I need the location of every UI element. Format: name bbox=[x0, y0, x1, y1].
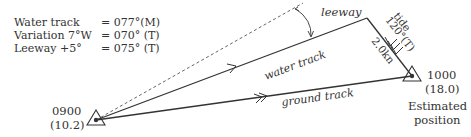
start-fix-log: (10.2) bbox=[50, 118, 85, 132]
leeway-arrow-top-icon bbox=[295, 7, 299, 11]
ground-track-line bbox=[96, 76, 412, 120]
estimated-position-line1: Estimated bbox=[408, 99, 468, 113]
estimated-position-line2: position bbox=[414, 113, 461, 127]
start-fix-time: 0900 bbox=[52, 104, 81, 118]
end-fix-time: 1000 bbox=[427, 68, 456, 82]
tidal-vector-diagram: leeway water track ground track tide 120… bbox=[0, 0, 471, 137]
heading-dashed-line bbox=[96, 3, 303, 120]
leeway-label: leeway bbox=[321, 5, 362, 19]
water-track-line bbox=[96, 18, 367, 120]
end-fix-log: (18.0) bbox=[425, 82, 460, 96]
